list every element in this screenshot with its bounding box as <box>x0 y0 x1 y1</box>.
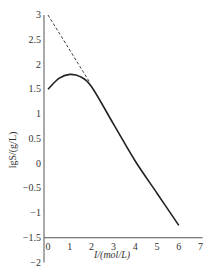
dashed-extrapolation <box>48 15 89 82</box>
y-tick-label: −1 <box>30 207 41 218</box>
x-tick-label: 0 <box>46 241 51 252</box>
y-axis-label: lgS/(g/L) <box>7 132 19 169</box>
y-tick-label: 2.5 <box>29 34 42 45</box>
x-axis-label: I/(mol/L) <box>93 249 131 261</box>
axes <box>44 15 203 263</box>
y-tick-label: 1.5 <box>29 83 42 94</box>
y-tick-label: −2 <box>30 257 41 268</box>
y-tick-label: 3 <box>36 9 41 20</box>
y-tick-label: 0.5 <box>29 133 42 144</box>
chart: 01234567 32.521.510.50−0.5−1−1.5−2 I/(mo… <box>0 0 215 272</box>
series <box>48 15 179 225</box>
x-tick-label: 7 <box>198 241 203 252</box>
x-tick-label: 1 <box>67 241 72 252</box>
y-tick-label: −1.5 <box>23 232 41 243</box>
solid-curve <box>48 74 179 225</box>
y-tick-label: 1 <box>36 108 41 119</box>
x-tick-label: 5 <box>155 241 160 252</box>
x-tick-label: 4 <box>133 241 138 252</box>
x-tick-label: 6 <box>176 241 181 252</box>
y-tick-label: −0.5 <box>23 182 41 193</box>
y-tick-labels: 32.521.510.50−0.5−1−1.5−2 <box>23 9 41 268</box>
y-tick-label: 2 <box>36 59 41 70</box>
y-tick-label: 0 <box>36 158 41 169</box>
